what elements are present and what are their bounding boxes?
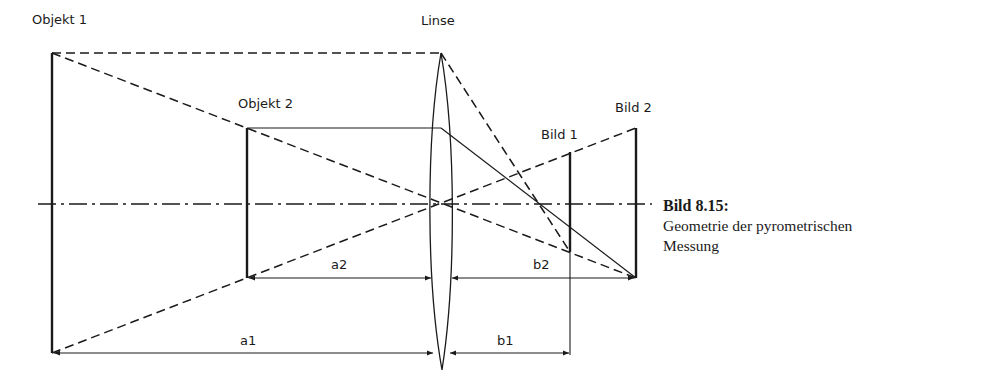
label-b2: b2 (533, 257, 550, 272)
label-objekt1: Objekt 1 (32, 12, 87, 27)
caption-line1: Geometrie der pyrometrischen (663, 216, 852, 236)
caption-title: Bild 8.15: (663, 196, 852, 216)
label-objekt2: Objekt 2 (238, 96, 293, 111)
caption-line2: Messung (663, 236, 852, 256)
label-b1: b1 (497, 333, 514, 348)
label-bild1: Bild 1 (541, 127, 578, 142)
label-linse: Linse (421, 13, 455, 28)
figure-caption: Bild 8.15: Geometrie der pyrometrischen … (663, 196, 852, 256)
rays-objekt1 (52, 53, 636, 353)
label-a1: a1 (240, 333, 256, 348)
label-bild2: Bild 2 (615, 100, 652, 115)
optics-diagram (0, 0, 1001, 382)
lens (430, 53, 453, 370)
label-a2: a2 (331, 257, 347, 272)
